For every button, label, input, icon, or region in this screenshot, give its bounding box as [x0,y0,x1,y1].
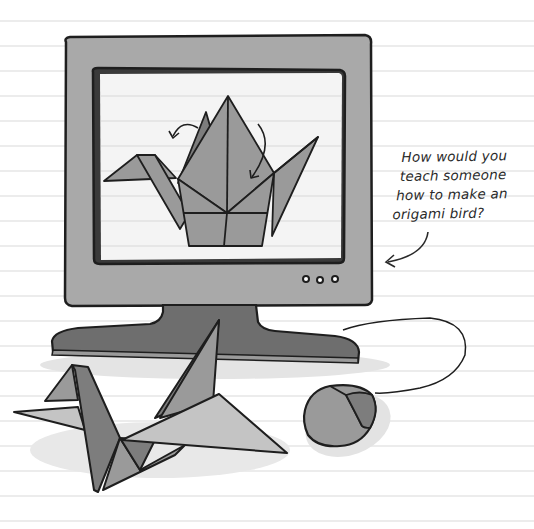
illustration [0,0,534,529]
annotation-line-2: teach someone [392,165,532,186]
monitor-button-1 [303,276,309,282]
mouse [296,382,399,468]
monitor-button-2 [317,277,323,283]
mouse-cable [343,318,466,393]
monitor-button-3 [332,276,338,282]
annotation-line-4: origami bird? [392,203,532,224]
annotation-line-3: how to make an [392,184,532,205]
monitor-buttons [303,276,338,283]
annotation-line-1: How would you [391,146,531,167]
annotation-note: How would you teach someone how to make … [391,146,532,224]
